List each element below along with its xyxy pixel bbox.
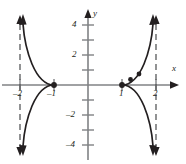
x-tick-label-neg1: –1 bbox=[47, 89, 56, 98]
curve-branch-right-lower bbox=[122, 85, 157, 156]
marked-point-right-a bbox=[128, 77, 133, 82]
x-tick-label-neg2: –2 bbox=[13, 89, 22, 98]
y-tick-label-neg2: –2 bbox=[66, 110, 75, 119]
y-axis-label: y bbox=[93, 9, 97, 18]
marked-point-right-b bbox=[137, 72, 142, 77]
graph-figure: x y –2 –1 1 2 4 2 –2 –4 bbox=[0, 0, 186, 164]
curve-branch-left-upper bbox=[19, 14, 54, 85]
x-axis-label: x bbox=[172, 64, 176, 73]
x-tick-label-pos2: 2 bbox=[153, 89, 158, 98]
y-tick-label-neg4: –4 bbox=[66, 140, 75, 149]
y-tick-label-pos2: 2 bbox=[72, 50, 77, 59]
coordinate-plot bbox=[0, 0, 186, 164]
x-tick-label-pos1: 1 bbox=[119, 89, 124, 98]
y-tick-label-pos4: 4 bbox=[72, 20, 77, 29]
